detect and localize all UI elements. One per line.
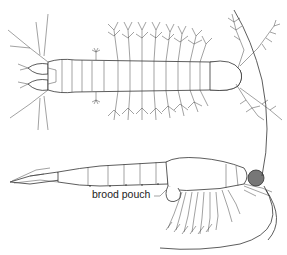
brood-pouch-leader-line	[154, 190, 166, 196]
lateral-view	[10, 10, 277, 249]
dorsal-view	[8, 14, 282, 130]
specimen-illustration	[0, 0, 287, 255]
brood-pouch-label: brood pouch	[92, 188, 150, 200]
